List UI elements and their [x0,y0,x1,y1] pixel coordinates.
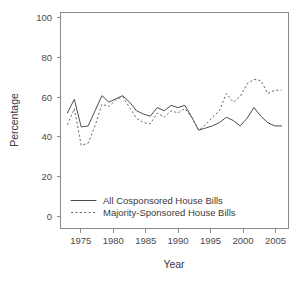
x-axis: 1975 1980 1985 1990 1995 2000 [70,229,286,247]
y-tick-group: 60 [41,92,60,103]
y-tick-label: 0 [47,211,52,222]
x-axis-title: Year [163,258,185,270]
x-tick-label: 1985 [135,235,156,246]
y-tick-group: 20 [41,171,60,182]
y-tick-label: 40 [41,131,52,142]
x-tick-group: 1995 [200,229,221,247]
x-tick-label: 2000 [233,235,254,246]
x-tick-label: 1980 [103,235,124,246]
y-axis: 0 20 40 60 80 100 [36,12,60,222]
y-tick-label: 80 [41,52,52,63]
x-tick-group: 2005 [265,229,286,247]
x-tick-group: 1975 [70,229,91,247]
y-tick-label: 100 [36,12,52,23]
legend-label-all-cosponsored: All Cosponsored House Bills [103,195,223,206]
x-tick-label: 1975 [70,235,91,246]
x-tick-group: 1990 [168,229,189,247]
x-tick-label: 2005 [265,235,286,246]
y-axis-title: Percentage [8,93,20,147]
x-tick-label: 1990 [168,235,189,246]
caption-sliver [0,279,305,286]
y-tick-label: 60 [41,92,52,103]
y-tick-group: 100 [36,12,60,23]
y-tick-label: 20 [41,171,52,182]
series-majority-sponsored-house-bills [67,79,281,145]
x-tick-group: 2000 [233,229,254,247]
y-tick-group: 0 [47,211,61,222]
chart-legend: All Cosponsored House Bills Majority-Spo… [71,195,236,218]
data-series-group [67,79,281,145]
chart-figure: 0 20 40 60 80 100 [0,0,305,286]
y-tick-group: 80 [41,52,60,63]
legend-label-majority-sponsored: Majority-Sponsored House Bills [103,207,236,218]
x-tick-group: 1985 [135,229,156,247]
x-tick-group: 1980 [103,229,124,247]
x-tick-label: 1995 [200,235,221,246]
line-chart-svg: 0 20 40 60 80 100 [0,0,305,286]
y-tick-group: 40 [41,131,60,142]
